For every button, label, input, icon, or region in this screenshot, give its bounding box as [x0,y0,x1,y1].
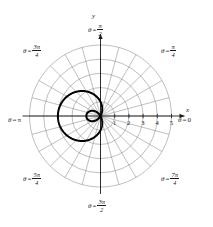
angle-value-0: 0 [187,116,191,124]
fraction-numerator-3: 3π [32,43,41,51]
polar-plot-figure: θ=0 θ=π4 θ=π2 θ=3π4 θ=π θ=5π4 θ=3π2 θ=7π… [0,0,213,227]
radial-tick-4: 4 [156,119,159,126]
radial-tick-5: 5 [170,119,173,126]
y-axis-label: y [92,12,95,20]
grid-spoke-225 [50,116,100,166]
angle-label-theta-pi-4: θ=π4 [161,43,176,59]
x-axis-label: x [186,106,189,114]
angle-value-4: π [17,116,21,124]
fraction-numerator-2: π [97,22,102,30]
fraction-2: π2 [97,22,102,38]
fraction-numerator-1: π [170,43,175,51]
angle-label-theta-3pi-2: θ=3π2 [88,198,106,214]
angle-label-theta-pi-2: θ=π2 [88,22,103,38]
polar-plot-canvas [0,0,213,227]
grid-spoke-60 [101,55,137,116]
fraction-denominator-6: 2 [97,206,106,214]
fraction-denominator-1: 4 [170,51,175,59]
grid-spoke-330 [101,116,162,152]
grid-spoke-195 [32,116,101,134]
fraction-numerator-7: 7π [170,171,179,179]
angle-label-theta-pi: θ=π [8,117,21,124]
grid-spoke-30 [101,81,162,117]
grid-spoke-165 [32,98,101,116]
radial-tick-3: 3 [141,119,144,126]
fraction-denominator-5: 4 [32,179,41,187]
angle-label-theta-0: θ=0 [178,117,191,124]
grid-spoke-135 [50,66,100,116]
grid-spoke-120 [65,55,101,116]
grid-spoke-15 [101,98,170,116]
grid-spoke-240 [65,116,101,177]
grid-spoke-255 [82,116,100,185]
fraction-7: 7π4 [170,171,179,187]
fraction-numerator-5: 5π [32,171,41,179]
angle-label-theta-5pi-4: θ=5π4 [23,171,41,187]
fraction-numerator-6: 3π [97,198,106,206]
fraction-denominator-2: 2 [97,30,102,38]
grid-spoke-285 [101,116,119,185]
angle-label-theta-7pi-4: θ=7π4 [161,171,179,187]
fraction-denominator-3: 4 [32,51,41,59]
fraction-denominator-7: 4 [170,179,179,187]
radial-tick-1: 1 [113,119,116,126]
fraction-1: π4 [170,43,175,59]
grid-spoke-45 [101,66,151,116]
grid-spoke-75 [101,47,119,116]
fraction-5: 5π4 [32,171,41,187]
grid-spoke-105 [82,47,100,116]
fraction-6: 3π2 [97,198,106,214]
grid-spoke-300 [101,116,137,177]
angle-label-theta-3pi-4: θ=3π4 [23,43,41,59]
radial-tick-2: 2 [127,119,130,126]
fraction-3: 3π4 [32,43,41,59]
